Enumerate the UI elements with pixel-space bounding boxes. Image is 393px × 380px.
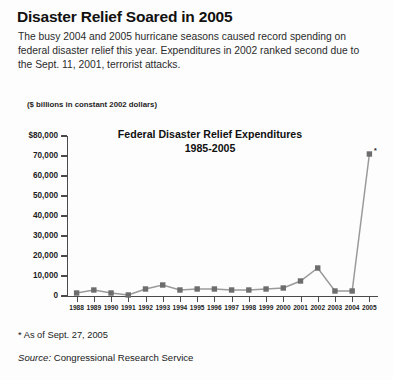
data-point-marker xyxy=(298,278,303,283)
data-point-marker xyxy=(143,286,148,291)
source-value: Congressional Research Service xyxy=(54,352,194,363)
chart-title-line2: 1985-2005 xyxy=(95,141,325,155)
data-point-marker xyxy=(246,287,251,292)
chart-title-line1: Federal Disaster Relief Expenditures xyxy=(95,127,325,141)
units-caption: ($ billions in constant 2002 dollars) xyxy=(27,100,177,110)
source-line: Source: Congressional Research Service xyxy=(18,352,193,363)
data-point-marker xyxy=(367,151,372,156)
chart-container: Federal Disaster Relief Expenditures 198… xyxy=(0,125,393,315)
marker-asterisk: * xyxy=(374,147,377,154)
series-line xyxy=(77,154,370,295)
data-point-marker xyxy=(194,286,199,291)
data-point-marker xyxy=(281,285,286,290)
data-point-marker xyxy=(212,286,217,291)
data-point-marker xyxy=(91,287,96,292)
page-title: Disaster Relief Soared in 2005 xyxy=(17,8,377,26)
data-point-marker xyxy=(349,288,354,293)
data-point-marker xyxy=(160,282,165,287)
data-point-marker xyxy=(229,287,234,292)
data-point-marker xyxy=(126,292,131,297)
summary-text: The busy 2004 and 2005 hurricane seasons… xyxy=(18,30,376,72)
footnote: * As of Sept. 27, 2005 xyxy=(18,330,108,340)
source-label: Source: xyxy=(18,352,51,363)
data-point-marker xyxy=(74,290,79,295)
data-point-marker xyxy=(332,288,337,293)
data-point-marker xyxy=(263,286,268,291)
infographic-page: Disaster Relief Soared in 2005 The busy … xyxy=(0,0,393,380)
data-point-marker xyxy=(177,287,182,292)
chart-title: Federal Disaster Relief Expenditures 198… xyxy=(95,127,325,155)
series-markers xyxy=(74,151,372,297)
data-point-marker xyxy=(315,265,320,270)
data-point-marker xyxy=(108,290,113,295)
